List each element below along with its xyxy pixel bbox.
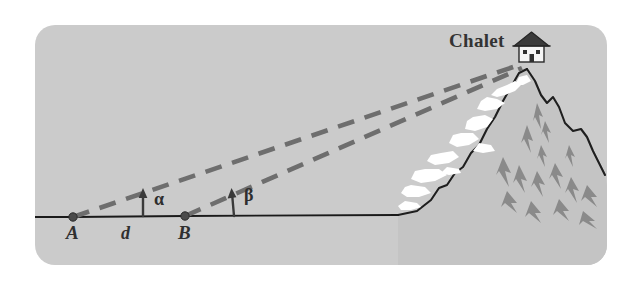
snow-patch: [401, 185, 431, 197]
mountain-peak-icon: [398, 69, 607, 265]
chalet-label: Chalet: [449, 31, 505, 50]
angle-beta-label: β: [244, 186, 253, 204]
point-a-marker: [69, 213, 77, 221]
figure-panel: Chalet A d B α β: [35, 25, 607, 265]
house-door: [530, 54, 535, 62]
point-b-label: B: [178, 223, 191, 242]
figure-page: Chalet A d B α β: [0, 0, 637, 287]
distance-d-label: d: [121, 224, 130, 242]
house-window-right: [536, 50, 540, 54]
ground-baseline: [35, 215, 398, 217]
beta-arrow-head: [228, 188, 237, 198]
point-a-label: A: [66, 223, 79, 242]
snow-patch: [427, 151, 459, 165]
point-b-marker: [181, 212, 189, 220]
house-roof: [514, 32, 549, 46]
snow-patch: [411, 169, 447, 183]
house-window-left: [523, 50, 527, 54]
snow-patch: [398, 201, 421, 210]
beta-angle-arrow: [228, 188, 237, 216]
snow-patch: [449, 133, 479, 147]
angle-alpha-label: α: [154, 190, 164, 208]
chalet-house-icon: [513, 32, 550, 62]
